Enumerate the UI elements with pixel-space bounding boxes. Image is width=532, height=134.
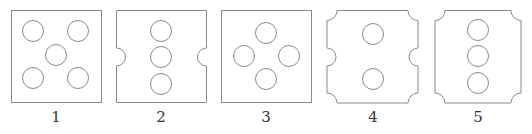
option-3-label: 3 — [256, 108, 276, 126]
option-1-label: 1 — [46, 108, 66, 126]
option-5-shape[interactable] — [435, 11, 521, 104]
option-1-shape[interactable] — [12, 11, 102, 103]
option-2-label: 2 — [151, 108, 171, 126]
option-2-shape[interactable] — [117, 11, 207, 103]
option-4-shape[interactable] — [327, 11, 418, 104]
option-3-shape[interactable] — [222, 11, 312, 103]
option-4-label: 4 — [363, 108, 383, 126]
option-5-label: 5 — [468, 108, 488, 126]
figure-options: 1 2 3 4 5 — [0, 0, 532, 134]
